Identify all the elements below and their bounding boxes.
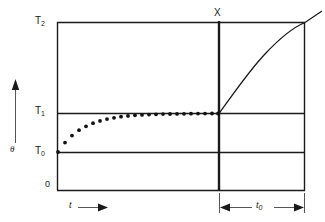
theta-axis-arrow bbox=[12, 79, 19, 143]
dotted-exponential-series bbox=[56, 112, 220, 154]
y-axis-label-t1: T1 bbox=[35, 106, 45, 116]
duration-span-label-t0: t0 bbox=[256, 201, 262, 210]
y-axis-label-origin: 0 bbox=[45, 180, 50, 189]
y-axis-label-t0: T0 bbox=[35, 146, 45, 156]
temperature-time-diagram: T2 T1 T0 0 X θ t t0 bbox=[0, 0, 325, 222]
t-axis-arrow bbox=[78, 204, 108, 212]
x-axis-name-t: t bbox=[69, 201, 72, 210]
rising-curve-after-x bbox=[219, 11, 322, 114]
y-axis-label-t2-subscript: 2 bbox=[41, 20, 45, 27]
duration-span-label-subscript: 0 bbox=[259, 204, 263, 211]
y-axis-name-theta: θ bbox=[10, 145, 14, 154]
y-axis-label-t0-subscript: 0 bbox=[41, 150, 45, 157]
y-axis-label-t2: T2 bbox=[35, 16, 45, 26]
y-axis-label-t1-subscript: 1 bbox=[41, 110, 45, 117]
vertical-marker-label-x: X bbox=[214, 8, 221, 18]
